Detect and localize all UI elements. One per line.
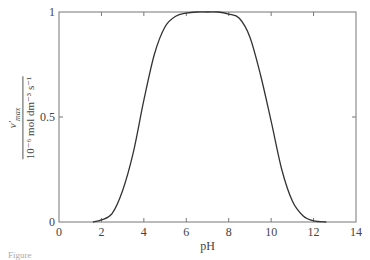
x-tick-label: 0 xyxy=(56,225,62,239)
y-axis-title: v′max 10⁻⁶ mol dm⁻³ s⁻¹ xyxy=(2,50,42,185)
y-axis-title-numerator: v′max xyxy=(6,76,23,159)
x-tick-label: 10 xyxy=(265,225,277,239)
figure-caption: Figure xyxy=(8,250,32,260)
y-axis-ticks: 00.51 xyxy=(40,5,356,229)
x-tick-label: 14 xyxy=(350,225,362,239)
plot-frame xyxy=(59,12,356,222)
y-tick-label: 1 xyxy=(49,5,55,19)
x-tick-label: 12 xyxy=(308,225,320,239)
x-axis-ticks: 02468101214 xyxy=(56,12,362,239)
x-tick-label: 4 xyxy=(141,225,147,239)
data-line-series xyxy=(93,12,326,222)
y-tick-label: 0.5 xyxy=(40,110,55,124)
y-tick-label: 0 xyxy=(49,215,55,229)
x-axis-title: pH xyxy=(200,239,215,253)
x-tick-label: 6 xyxy=(183,225,189,239)
x-tick-label: 2 xyxy=(98,225,104,239)
y-axis-title-denominator: 10⁻⁶ mol dm⁻³ s⁻¹ xyxy=(24,76,38,159)
x-tick-label: 8 xyxy=(226,225,232,239)
